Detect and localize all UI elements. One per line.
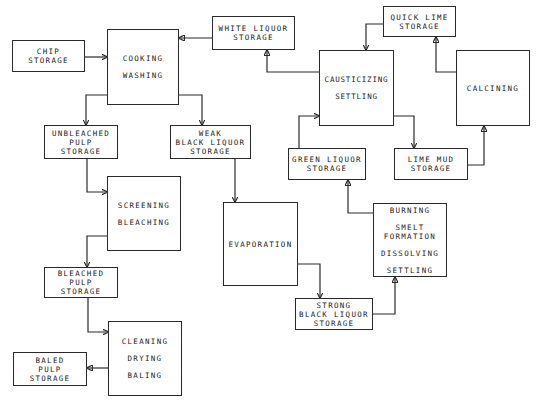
node-cleaning-drying-baling: CLEANING DRYING BALING [108, 321, 182, 396]
edge-cooking-to-weak-black-liquor [179, 95, 202, 125]
node-label: SETTLING [387, 266, 434, 275]
node-baled-pulp-storage: BALED PULP STORAGE [13, 352, 87, 386]
node-chip-storage: CHIP STORAGE [12, 40, 85, 72]
node-label: CHIP [37, 47, 60, 56]
node-label: SCREENING [118, 201, 170, 210]
node-label: EVAPORATION [229, 240, 293, 249]
node-label: CLEANING [122, 337, 169, 346]
node-causticizing-settling: CAUSTICIZING SETTLING [319, 50, 394, 126]
edge-evaporation-to-strong-black [298, 264, 320, 298]
node-label: COOKING [123, 54, 164, 63]
node-label: STORAGE [233, 33, 274, 42]
node-label: CALCINING [467, 84, 519, 93]
node-label: SETTLING [335, 92, 378, 101]
edge-unbleached-to-screening [87, 159, 107, 192]
node-label: WEAK [199, 129, 222, 138]
node-label: STORAGE [190, 147, 231, 156]
edge-lime-mud-to-calcining [468, 126, 484, 165]
node-label: STRONG [317, 301, 352, 310]
node-label: STORAGE [61, 147, 102, 156]
node-strong-black-liquor-storage: STRONG BLACK LIQUOR STORAGE [295, 298, 373, 330]
node-label: STORAGE [411, 164, 452, 173]
edge-strong-black-to-recovery [373, 277, 395, 314]
node-weak-black-liquor-storage: WEAK BLACK LIQUOR STORAGE [170, 125, 251, 159]
node-label: CAUSTICIZING [325, 75, 389, 84]
node-label: BLACK LIQUOR [299, 310, 369, 319]
node-label: GREEN LIQUOR [292, 155, 362, 164]
edge-causticizing-to-white-liquor [267, 50, 319, 72]
node-label: QUICK LIME [390, 13, 448, 22]
node-label: BALED [35, 356, 64, 365]
edge-calcining-to-quick-lime [436, 37, 456, 72]
node-label: PULP [69, 138, 92, 147]
node-label: FORMATION [384, 232, 436, 241]
node-label: SMELT [395, 223, 424, 232]
edge-cooking-to-unbleached [86, 95, 107, 125]
node-burning-smelt-dissolving-settling: BURNING SMELT FORMATION DISSOLVING SETTL… [373, 203, 447, 277]
node-label: STORAGE [399, 22, 440, 31]
node-label: STORAGE [28, 56, 69, 65]
kraft-pulp-process-flow-diagram: CHIP STORAGE COOKING WASHING WHITE LIQUO… [0, 0, 540, 405]
node-label: PULP [69, 278, 92, 287]
node-label: WHITE LIQUOR [219, 24, 289, 33]
node-label: BLEACHED [58, 269, 105, 278]
edge-screening-to-bleached [87, 236, 107, 267]
node-label: BLACK LIQUOR [176, 138, 246, 147]
edge-green-liquor-to-causticizing [299, 116, 319, 148]
node-label: DRYING [128, 354, 163, 363]
node-green-liquor-storage: GREEN LIQUOR STORAGE [288, 148, 366, 180]
node-bleached-pulp-storage: BLEACHED PULP STORAGE [44, 267, 118, 298]
node-label: STORAGE [61, 287, 102, 296]
edge-recovery-to-green-liquor [348, 180, 373, 213]
node-label: PULP [38, 365, 61, 374]
node-label: STORAGE [307, 164, 348, 173]
node-evaporation: EVAPORATION [223, 202, 298, 286]
node-label: BURNING [390, 206, 431, 215]
node-label: LIME MUD [408, 155, 455, 164]
node-label: WASHING [123, 71, 164, 80]
edge-quick-lime-to-causticizing [366, 24, 383, 50]
node-screening-bleaching: SCREENING BLEACHING [107, 176, 181, 251]
node-label: UNBLEACHED [52, 129, 110, 138]
node-cooking-washing: COOKING WASHING [107, 29, 179, 105]
node-white-liquor-storage: WHITE LIQUOR STORAGE [212, 16, 295, 50]
node-label: BALING [128, 371, 163, 380]
edge-causticizing-to-lime-mud [394, 116, 414, 148]
node-calcining: CALCINING [456, 50, 530, 126]
node-quick-lime-storage: QUICK LIME STORAGE [383, 6, 456, 37]
node-lime-mud-storage: LIME MUD STORAGE [394, 148, 468, 180]
edge-bleached-to-cleaning [88, 298, 108, 332]
node-label: BLEACHING [118, 218, 170, 227]
node-unbleached-pulp-storage: UNBLEACHED PULP STORAGE [44, 125, 118, 159]
node-label: DISSOLVING [381, 249, 439, 258]
node-label: STORAGE [314, 319, 355, 328]
node-label: STORAGE [30, 374, 71, 383]
